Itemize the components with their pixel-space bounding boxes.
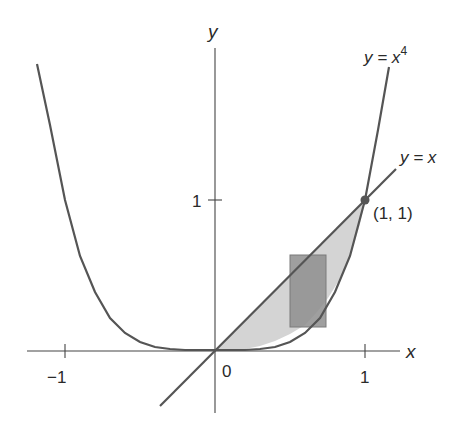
- area-between-curves-diagram: y x −1 1 1 0 (1, 1) y = x4 y = x: [0, 0, 466, 435]
- tick-label-x-neg1: −1: [47, 368, 66, 387]
- tick-label-x-1: 1: [360, 368, 369, 387]
- origin-label: 0: [222, 362, 231, 381]
- x-axis-label: x: [405, 341, 417, 362]
- curve-x4-label: y = x4: [363, 44, 407, 67]
- tick-label-y-1: 1: [192, 192, 201, 211]
- curve-x4-label-exponent: 4: [400, 44, 407, 58]
- intersection-point: [361, 196, 370, 205]
- curve-x4: [37, 64, 389, 350]
- y-axis-label: y: [206, 21, 219, 42]
- point-label: (1, 1): [373, 204, 413, 223]
- curve-x4-label-text: y = x: [363, 48, 401, 67]
- line-label: y = x: [399, 148, 437, 167]
